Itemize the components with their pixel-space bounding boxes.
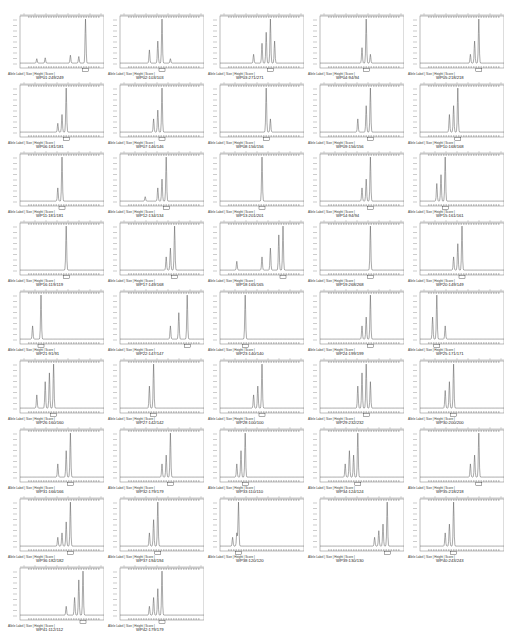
plot-area bbox=[308, 79, 404, 141]
electropherogram-panel: Allele Label | Size | Height | Score |WP… bbox=[308, 424, 404, 494]
panel-caption: WP41:112/112 bbox=[36, 627, 63, 632]
plot-area bbox=[408, 355, 504, 417]
electropherogram-panel: Allele Label | Size | Height | Score |WP… bbox=[208, 355, 304, 425]
electropherogram-panel: Allele Label | Size | Height | Score |WP… bbox=[208, 217, 304, 287]
electropherogram-panel: Allele Label | Size | Height | Score |WP… bbox=[208, 79, 304, 149]
panel-caption: WP38:120/120 bbox=[236, 558, 264, 563]
electropherogram-panel: Allele Label | Size | Height | Score |WP… bbox=[208, 10, 304, 80]
electropherogram-panel: Allele Label | Size | Height | Score |WP… bbox=[308, 493, 404, 563]
plot-area bbox=[8, 562, 104, 624]
plot-area bbox=[408, 79, 504, 141]
plot-area bbox=[208, 424, 304, 486]
plot-area bbox=[108, 493, 204, 555]
electropherogram-panel: Allele Label | Size | Height | Score |WP… bbox=[408, 217, 504, 287]
panel-caption: WP40:243/243 bbox=[436, 558, 464, 563]
plot-area bbox=[108, 355, 204, 417]
electropherogram-panel: Allele Label | Size | Height | Score |WP… bbox=[8, 217, 104, 287]
plot-area bbox=[208, 79, 304, 141]
electropherogram-panel: Allele Label | Size | Height | Score |WP… bbox=[308, 355, 404, 425]
electropherogram-panel: Allele Label | Size | Height | Score |WP… bbox=[308, 217, 404, 287]
electropherogram-panel: Allele Label | Size | Height | Score |WP… bbox=[108, 10, 204, 80]
electropherogram-panel: Allele Label | Size | Height | Score |WP… bbox=[108, 79, 204, 149]
electropherogram-panel: Allele Label | Size | Height | Score |WP… bbox=[8, 286, 104, 356]
panel-caption: WP39:130/130 bbox=[336, 558, 364, 563]
plot-area bbox=[8, 217, 104, 279]
plot-area bbox=[408, 424, 504, 486]
plot-area bbox=[108, 10, 204, 72]
electropherogram-panel: Allele Label | Size | Height | Score |WP… bbox=[108, 493, 204, 563]
panel-caption: WP42:179/179 bbox=[136, 627, 164, 632]
plot-area bbox=[8, 148, 104, 210]
electropherogram-panel: Allele Label | Size | Height | Score |WP… bbox=[408, 10, 504, 80]
electropherogram-panel: Allele Label | Size | Height | Score |WP… bbox=[308, 286, 404, 356]
electropherogram-panel: Allele Label | Size | Height | Score |WP… bbox=[108, 148, 204, 218]
plot-area bbox=[8, 424, 104, 486]
electropherogram-panel: Allele Label | Size | Height | Score |WP… bbox=[108, 355, 204, 425]
plot-area bbox=[308, 355, 404, 417]
electropherogram-panel: Allele Label | Size | Height | Score |WP… bbox=[108, 286, 204, 356]
electropherogram-panel: Allele Label | Size | Height | Score |WP… bbox=[208, 493, 304, 563]
plot-area bbox=[108, 424, 204, 486]
plot-area bbox=[8, 286, 104, 348]
electropherogram-panel: Allele Label | Size | Height | Score |WP… bbox=[8, 148, 104, 218]
plot-area bbox=[408, 493, 504, 555]
electropherogram-panel: Allele Label | Size | Height | Score |WP… bbox=[408, 148, 504, 218]
electropherogram-panel: Allele Label | Size | Height | Score |WP… bbox=[208, 424, 304, 494]
plot-area bbox=[108, 562, 204, 624]
plot-area bbox=[308, 424, 404, 486]
plot-area bbox=[208, 148, 304, 210]
electropherogram-panel: Allele Label | Size | Height | Score |WP… bbox=[308, 10, 404, 80]
plot-area bbox=[208, 355, 304, 417]
electropherogram-panel: Allele Label | Size | Height | Score |WP… bbox=[108, 217, 204, 287]
electropherogram-panel: Allele Label | Size | Height | Score |WP… bbox=[308, 148, 404, 218]
plot-area bbox=[208, 286, 304, 348]
electropherogram-panel: Allele Label | Size | Height | Score |WP… bbox=[8, 562, 104, 632]
plot-area bbox=[8, 493, 104, 555]
plot-area bbox=[108, 148, 204, 210]
plot-area bbox=[308, 148, 404, 210]
plot-area bbox=[308, 493, 404, 555]
plot-area bbox=[108, 217, 204, 279]
plot-area bbox=[208, 493, 304, 555]
plot-area bbox=[108, 79, 204, 141]
plot-area bbox=[308, 286, 404, 348]
plot-area bbox=[308, 10, 404, 72]
electropherogram-panel: Allele Label | Size | Height | Score |WP… bbox=[8, 10, 104, 80]
plot-area bbox=[408, 286, 504, 348]
electropherogram-panel: Allele Label | Size | Height | Score |WP… bbox=[108, 424, 204, 494]
plot-area bbox=[308, 217, 404, 279]
electropherogram-panel: Allele Label | Size | Height | Score |WP… bbox=[8, 493, 104, 563]
plot-area bbox=[408, 217, 504, 279]
plot-area bbox=[8, 355, 104, 417]
electropherogram-panel: Allele Label | Size | Height | Score |WP… bbox=[408, 286, 504, 356]
electropherogram-panel: Allele Label | Size | Height | Score |WP… bbox=[208, 286, 304, 356]
electropherogram-panel: Allele Label | Size | Height | Score |WP… bbox=[408, 424, 504, 494]
plot-area bbox=[208, 10, 304, 72]
electropherogram-panel: Allele Label | Size | Height | Score |WP… bbox=[408, 493, 504, 563]
plot-area bbox=[408, 148, 504, 210]
electropherogram-panel: Allele Label | Size | Height | Score |WP… bbox=[408, 79, 504, 149]
electropherogram-panel: Allele Label | Size | Height | Score |WP… bbox=[408, 355, 504, 425]
plot-area bbox=[108, 286, 204, 348]
plot-area bbox=[408, 10, 504, 72]
plot-area bbox=[8, 79, 104, 141]
electropherogram-panel: Allele Label | Size | Height | Score |WP… bbox=[308, 79, 404, 149]
electropherogram-panel: Allele Label | Size | Height | Score |WP… bbox=[208, 148, 304, 218]
plot-area bbox=[208, 217, 304, 279]
electropherogram-panel: Allele Label | Size | Height | Score |WP… bbox=[108, 562, 204, 632]
electropherogram-panel: Allele Label | Size | Height | Score |WP… bbox=[8, 355, 104, 425]
electropherogram-panel: Allele Label | Size | Height | Score |WP… bbox=[8, 79, 104, 149]
plot-area bbox=[8, 10, 104, 72]
electropherogram-panel: Allele Label | Size | Height | Score |WP… bbox=[8, 424, 104, 494]
